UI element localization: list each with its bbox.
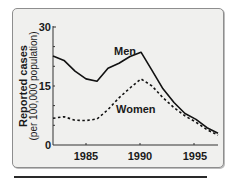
men-label: Men [114,45,136,57]
y-tick-0: 0 [45,139,51,151]
x-tick-1995: 1995 [183,150,207,162]
y-tick-30: 30 [39,21,51,33]
line-chart: 30 15 0 1985 1990 1995 Reported cases (p… [0,0,232,179]
women-label: Women [116,103,156,115]
bottom-rule [14,176,207,178]
y-axis-subtitle: (per 100,000 population) [28,32,39,141]
y-tick-15: 15 [39,80,51,92]
x-tick-1985: 1985 [74,150,98,162]
x-tick-1990: 1990 [128,150,152,162]
